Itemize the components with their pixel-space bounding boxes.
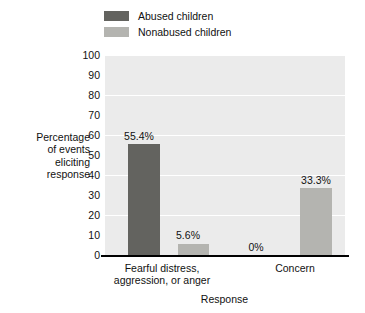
plot-area [105,55,345,255]
bar-chart-figure: Abused children Nonabused children Perce… [0,0,365,313]
y-tick-10: 10 [74,230,100,240]
gridline-80 [105,95,345,96]
y-tick-90: 90 [74,70,100,80]
y-tick-40: 40 [74,170,100,180]
legend-item-abused-children: Abused children [104,9,304,23]
y-tick-30: 30 [74,190,100,200]
x-axis-label-fearful-distress: Fearful distress, aggression, or anger [103,262,221,287]
bar-abused-children-fearful-distress [128,144,160,255]
bar-nonabused-children-concern [300,188,332,255]
legend-label-abused-children: Abused children [138,11,213,22]
x-axis-label-concern: Concern [250,262,340,274]
y-tick-80: 80 [74,90,100,100]
legend-label-nonabused-children: Nonabused children [138,27,231,38]
x-axis-label-concern-line-1: Concern [250,262,340,274]
bar-value-abused-children-fearful-distress: 55.4% [112,131,166,142]
y-tick-50: 50 [74,150,100,160]
x-axis-label-fearful-distress-line-2: aggression, or anger [103,274,221,286]
legend-item-nonabused-children: Nonabused children [104,25,304,39]
bar-value-nonabused-children-concern: 33.3% [288,175,344,186]
y-tick-60: 60 [74,130,100,140]
x-axis-baseline [101,255,349,257]
legend-swatch-nonabused-children [104,27,129,37]
y-tick-100: 100 [74,50,100,60]
y-tick-70: 70 [74,110,100,120]
y-axis-tick-labels: 100 90 80 70 60 50 40 30 20 10 0 [72,0,100,313]
bar-value-abused-children-concern: 0% [235,242,277,253]
y-tick-20: 20 [74,210,100,220]
x-axis-title: Response [0,293,365,305]
x-axis-label-fearful-distress-line-1: Fearful distress, [103,262,221,274]
chart-legend: Abused children Nonabused children [104,9,304,41]
y-tick-0: 0 [74,250,100,260]
gridline-100 [105,55,345,56]
bar-nonabused-children-fearful-distress [178,244,209,255]
legend-swatch-abused-children [104,11,129,21]
x-axis-title-text: Response [201,293,248,305]
bar-value-nonabused-children-fearful-distress: 5.6% [163,230,213,241]
